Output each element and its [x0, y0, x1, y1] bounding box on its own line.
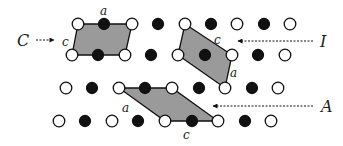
open-atom — [66, 49, 78, 61]
filled-atom — [200, 50, 211, 61]
filled-atom — [80, 116, 91, 127]
label-a: A — [319, 97, 333, 116]
open-atom — [179, 18, 191, 30]
open-atom — [60, 82, 72, 94]
open-atom — [106, 115, 118, 127]
filled-atom — [93, 50, 104, 61]
filled-atom — [206, 19, 217, 30]
lattice-diagram: C I A a c c a a c — [0, 0, 343, 146]
label-i: I — [319, 32, 327, 51]
open-atom — [53, 115, 65, 127]
open-atom — [272, 82, 284, 94]
filled-atom — [247, 83, 258, 94]
open-atom — [126, 18, 138, 30]
open-atom — [172, 49, 184, 61]
filled-atom — [153, 19, 164, 30]
filled-atom — [140, 83, 151, 94]
open-atom — [72, 18, 84, 30]
cell-i-a-label: a — [230, 66, 237, 80]
filled-atom — [259, 19, 270, 30]
filled-atom — [194, 83, 205, 94]
open-atom — [212, 115, 224, 127]
open-atom — [113, 82, 125, 94]
filled-atom — [240, 116, 251, 127]
filled-atom — [253, 50, 264, 61]
label-c: C — [17, 31, 29, 50]
filled-atom — [146, 50, 157, 61]
cell-c-c-label: c — [62, 35, 69, 49]
open-atom — [159, 115, 171, 127]
open-atom — [284, 18, 296, 30]
open-atom — [166, 82, 178, 94]
open-atom — [265, 115, 277, 127]
filled-atom — [99, 19, 110, 30]
filled-atom — [187, 116, 198, 127]
cell-c-a-label: a — [100, 4, 107, 18]
open-atom — [279, 49, 291, 61]
open-atom — [226, 49, 238, 61]
cell-a-c-label: c — [183, 128, 190, 142]
open-atom — [231, 18, 243, 30]
open-atom — [219, 82, 231, 94]
cell-i-c-label: c — [214, 33, 221, 47]
filled-atom — [133, 116, 144, 127]
open-atom — [119, 49, 131, 61]
filled-atom — [87, 83, 98, 94]
cell-a-a-label: a — [122, 101, 129, 115]
